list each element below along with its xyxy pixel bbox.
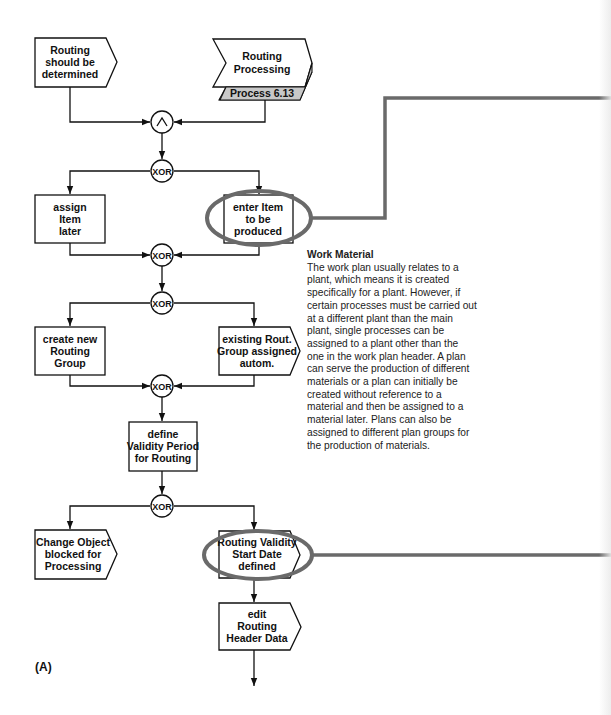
node-label: define — [148, 428, 179, 440]
function-assign-item-later[interactable]: assign Item later — [35, 195, 105, 243]
node-label: produced — [234, 225, 282, 237]
node-label: determined — [42, 68, 99, 80]
process-edit-routing-header-data[interactable]: edit Routing Header Data — [219, 603, 301, 650]
node-label: Routing — [237, 620, 277, 632]
edge-xor3-to-create — [70, 303, 150, 326]
node-label: autom. — [240, 357, 275, 369]
function-create-new-routing-group[interactable]: create new Routing Group — [35, 327, 105, 375]
callout-line-enter-item — [312, 98, 611, 218]
function-enter-item-to-be-produced[interactable]: enter Item to be produced — [224, 195, 293, 243]
node-label: Routing — [50, 345, 90, 357]
annotation-body: The work plan usually relates to a plant… — [307, 262, 477, 451]
edge-existing-to-xor4 — [174, 375, 254, 386]
node-label: assign — [53, 201, 86, 213]
node-label: Item — [59, 213, 81, 225]
edge-event1-to-and — [70, 87, 150, 122]
page-edge-shadow — [599, 0, 611, 715]
xor-connector-5: XOR — [151, 495, 173, 517]
node-label: for Routing — [135, 452, 192, 464]
svg-text:XOR: XOR — [152, 299, 172, 309]
svg-text:XOR: XOR — [152, 167, 172, 177]
event-routing-should-be-determined[interactable]: Routing should be determined — [35, 38, 117, 87]
xor-connector-3: XOR — [151, 292, 173, 314]
event-change-object-blocked[interactable]: Change Object blocked for Processing — [35, 530, 117, 579]
xor-connector-1: XOR — [151, 160, 173, 182]
node-label: to be — [245, 213, 270, 225]
node-label: Group assigned — [217, 345, 297, 357]
svg-text:XOR: XOR — [152, 251, 172, 261]
process-tab-label: Process 6.13 — [230, 87, 294, 99]
edge-create-to-xor4 — [70, 375, 150, 386]
xor-connector-4: XOR — [151, 375, 173, 397]
edge-xor3-to-existing — [174, 303, 254, 326]
figure-panel-label: (A) — [35, 660, 52, 674]
function-define-validity-period[interactable]: define Validity Period for Routing — [127, 422, 199, 471]
node-label: Group — [54, 357, 86, 369]
and-connector — [151, 111, 173, 133]
node-label: Validity Period — [127, 440, 199, 452]
node-label: Change Object — [36, 536, 111, 548]
node-label: blocked for — [45, 548, 102, 560]
svg-text:XOR: XOR — [152, 502, 172, 512]
node-label: later — [59, 225, 81, 237]
annotation-title: Work Material — [307, 249, 477, 262]
node-label: Processing — [45, 560, 102, 572]
svg-text:XOR: XOR — [152, 382, 172, 392]
node-label: should be — [45, 56, 95, 68]
edge-xor1-to-assign — [70, 171, 150, 194]
node-label: Processing — [234, 63, 291, 75]
process-interface-routing-processing[interactable]: Routing Processing Process 6.13 — [213, 39, 312, 100]
edge-xor5-to-validity — [174, 506, 254, 530]
node-label: existing Rout. — [222, 333, 292, 345]
edge-xor5-to-change — [70, 506, 150, 529]
node-label: Routing — [50, 44, 90, 56]
epc-diagram: Routing should be determined Routing Pro… — [0, 0, 611, 715]
node-label: Routing Validity — [217, 536, 296, 548]
node-label: Header Data — [226, 632, 287, 644]
edge-assign-to-xor2 — [70, 243, 150, 255]
node-label: edit — [248, 608, 267, 620]
node-label: defined — [238, 560, 275, 572]
work-material-annotation: Work Material The work plan usually rela… — [307, 249, 477, 452]
edge-process-to-and — [174, 100, 265, 122]
node-label: create new — [43, 333, 98, 345]
xor-connector-2: XOR — [151, 244, 173, 266]
event-existing-rout-group-assigned[interactable]: existing Rout. Group assigned autom. — [217, 327, 300, 375]
node-label: Routing — [242, 50, 282, 62]
node-label: Start Date — [232, 548, 282, 560]
event-routing-validity-start-date-defined[interactable]: Routing Validity Start Date defined — [217, 531, 300, 578]
node-label: enter Item — [233, 201, 283, 213]
